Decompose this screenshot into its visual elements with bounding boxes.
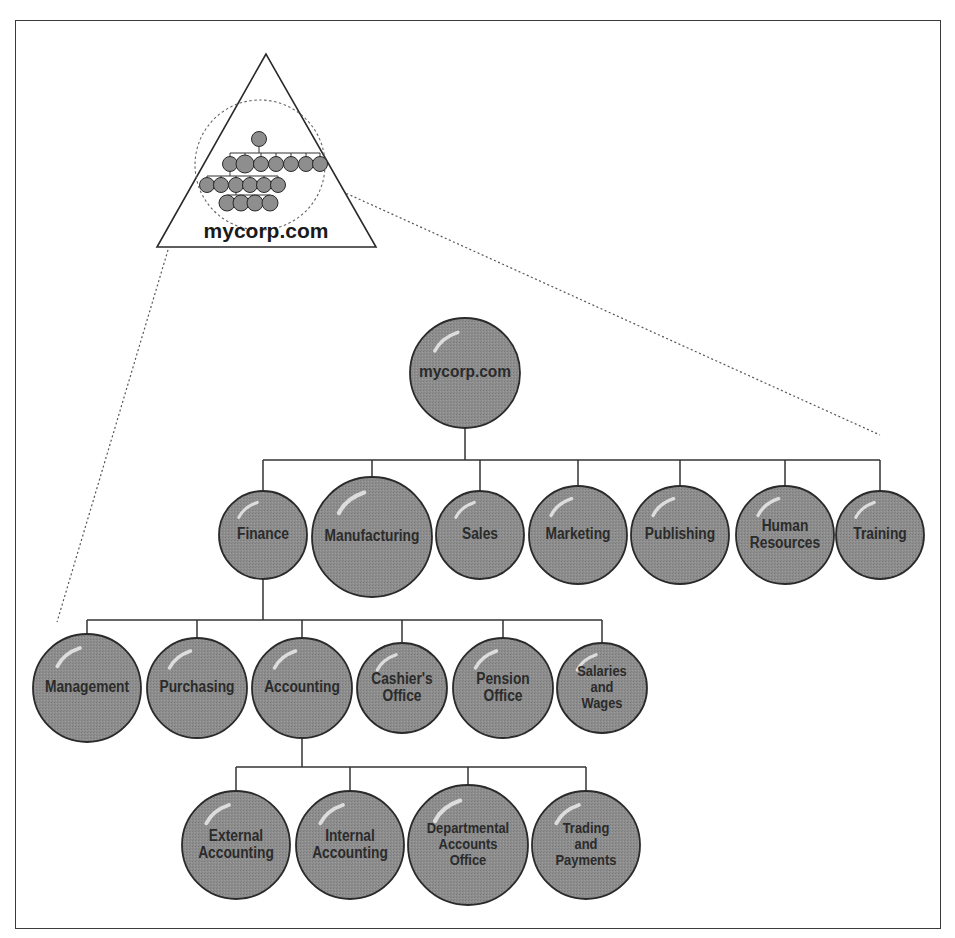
- node-label: Accounts: [439, 835, 498, 852]
- node-label: Publishing: [645, 525, 715, 542]
- diagram-stage: mycorp.com mycorp.comFinanceManufacturin…: [0, 0, 955, 938]
- node-label: Office: [484, 687, 523, 704]
- org-chart-canvas: mycorp.com mycorp.comFinanceManufacturin…: [0, 0, 955, 938]
- node-management: Management: [33, 634, 141, 742]
- node-root: mycorp.com: [410, 318, 520, 428]
- node-label: Office: [383, 687, 422, 704]
- node-trading-and-payments: TradingandPayments: [532, 791, 640, 899]
- node-label: Cashier's: [371, 670, 432, 687]
- root-label: mycorp.com: [419, 363, 511, 380]
- node-label: Finance: [237, 525, 289, 542]
- node-label: Marketing: [546, 525, 611, 542]
- node-label: Management: [45, 678, 130, 695]
- node-manufacturing: Manufacturing: [312, 477, 432, 597]
- node-internal-accounting: InternalAccounting: [296, 791, 404, 899]
- node-label: and: [591, 678, 614, 695]
- node-departmental-accounts-office: DepartmentalAccountsOffice: [408, 785, 528, 905]
- overview-label: mycorp.com: [204, 219, 329, 242]
- node-training: Training: [836, 491, 924, 579]
- org-nodes: mycorp.comFinanceManufacturingSalesMarke…: [33, 318, 924, 905]
- overview-triangle: mycorp.com: [157, 54, 376, 247]
- node-finance: Finance: [219, 491, 307, 579]
- node-label: External: [209, 827, 263, 844]
- node-label: Departmental: [427, 819, 509, 836]
- node-label: Purchasing: [160, 678, 235, 695]
- node-pension-office: PensionOffice: [453, 638, 553, 738]
- node-label: Internal: [325, 827, 375, 844]
- node-label: Payments: [556, 851, 617, 868]
- node-label: Office: [450, 851, 487, 868]
- node-publishing: Publishing: [631, 486, 729, 584]
- node-label: Sales: [462, 525, 498, 542]
- node-label: Pension: [476, 670, 530, 687]
- node-external-accounting: ExternalAccounting: [182, 791, 290, 899]
- node-label: Accounting: [264, 678, 340, 695]
- node-salaries-and-wages: SalariesandWages: [557, 643, 647, 733]
- node-label: Training: [853, 525, 907, 542]
- node-cashiers-office: Cashier'sOffice: [357, 643, 447, 733]
- node-label: Resources: [750, 534, 820, 551]
- node-label: Accounting: [198, 844, 274, 861]
- node-label: Salaries: [577, 662, 626, 679]
- node-label: Accounting: [312, 844, 388, 861]
- node-marketing: Marketing: [529, 486, 627, 584]
- node-label: Manufacturing: [325, 527, 420, 544]
- node-label: Human: [762, 517, 809, 534]
- node-human-resources: HumanResources: [736, 486, 834, 584]
- node-accounting: Accounting: [252, 638, 352, 738]
- node-label: Wages: [581, 694, 622, 711]
- node-purchasing: Purchasing: [147, 638, 247, 738]
- node-label: Trading: [563, 819, 610, 836]
- node-sales: Sales: [436, 491, 524, 579]
- node-label: and: [575, 835, 598, 852]
